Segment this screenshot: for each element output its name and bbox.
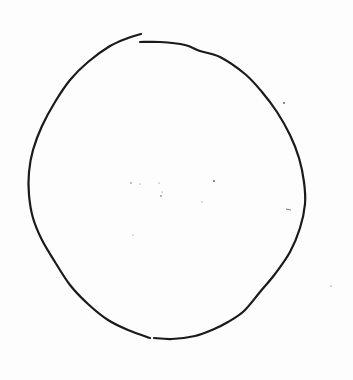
sketch-canvas: Hand-drawn circle sketch on white paper [0, 0, 353, 380]
sketch-strokes [28, 34, 305, 339]
speckle [140, 184, 141, 185]
speckle [162, 192, 163, 193]
paper-speckles [130, 102, 331, 287]
speckle [130, 182, 131, 183]
speckle [330, 285, 331, 286]
speckle [160, 195, 162, 197]
pencil-dash [286, 209, 291, 210]
speckle [133, 235, 134, 236]
speckle [159, 183, 160, 184]
main-arc-left-stroke [28, 34, 150, 338]
main-arc-right-stroke [140, 42, 305, 339]
speckle [213, 180, 215, 182]
speckle [202, 202, 203, 203]
circle-sketch [0, 0, 353, 380]
speckle [283, 102, 285, 104]
